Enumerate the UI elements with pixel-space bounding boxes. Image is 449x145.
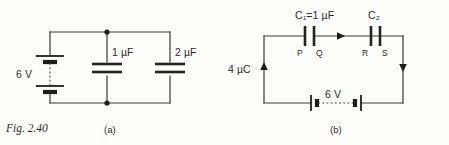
capacitor-b-c2-label: C₂ — [368, 10, 380, 21]
capacitor-b-c1-plate-p-label: P — [297, 49, 303, 58]
part-label-a: (a) — [104, 124, 116, 135]
capacitor-b-c2-plate-r-label: R — [362, 49, 368, 58]
battery-a-voltage-label: 6 V — [16, 69, 32, 80]
current-arrow-left-up-icon — [260, 62, 268, 70]
node-a-bottom — [104, 100, 109, 105]
node-a-top — [104, 29, 109, 34]
capacitor-a-1uf-label: 1 µF — [112, 47, 134, 58]
current-arrow-top-right-icon — [337, 32, 345, 40]
part-label-b: (b) — [330, 124, 342, 135]
capacitor-a-2uf-label: 2 µF — [175, 47, 197, 58]
capacitor-b-c1-label: C₁=1 µF — [295, 10, 334, 21]
circuit-a-group — [36, 29, 185, 105]
current-arrow-right-down-icon — [399, 64, 407, 72]
figure-container: 6 V 1 µF 2 µF C₁=1 µF C₂ P Q R S 4 µC 6 … — [0, 0, 449, 145]
circuit-drawing-svg — [0, 0, 449, 145]
capacitor-b-c2-plate-s-label: S — [382, 49, 388, 58]
charge-label: 4 µC — [228, 64, 251, 75]
figure-caption: Fig. 2.40 — [6, 122, 48, 134]
battery-b-voltage-label: 6 V — [325, 89, 341, 100]
capacitor-b-c1-plate-q-label: Q — [316, 49, 323, 58]
